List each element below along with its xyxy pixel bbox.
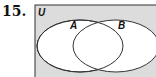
set-b-ellipse bbox=[73, 20, 156, 72]
set-a-label: A bbox=[69, 20, 77, 31]
venn-diagram: U A B bbox=[0, 0, 156, 77]
universe-label: U bbox=[38, 7, 46, 18]
set-b-label: B bbox=[118, 20, 125, 31]
